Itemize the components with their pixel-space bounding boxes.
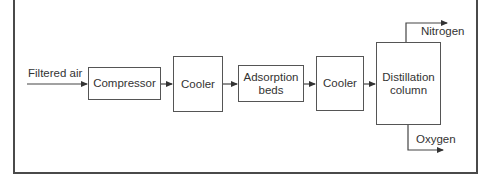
compressor-box: Compressor — [88, 67, 161, 100]
cooler-2-label: Cooler — [323, 77, 357, 90]
nitrogen-label: Nitrogen — [421, 25, 464, 37]
distillation-line1: Distillation — [382, 71, 434, 84]
adsorption-beds-box: Adsorption beds — [238, 65, 304, 102]
adsorption-beds-line1: Adsorption — [244, 71, 299, 84]
distillation-line2: column — [390, 84, 427, 97]
cooler-1-box: Cooler — [173, 56, 223, 112]
cooler-2-box: Cooler — [316, 56, 364, 111]
oxygen-label: Oxygen — [416, 133, 456, 145]
distillation-column-box: Distillation column — [376, 42, 441, 125]
adsorption-beds-line2: beds — [259, 84, 284, 97]
compressor-label: Compressor — [93, 77, 156, 90]
cooler-1-label: Cooler — [181, 78, 215, 91]
input-label: Filtered air — [28, 67, 82, 79]
